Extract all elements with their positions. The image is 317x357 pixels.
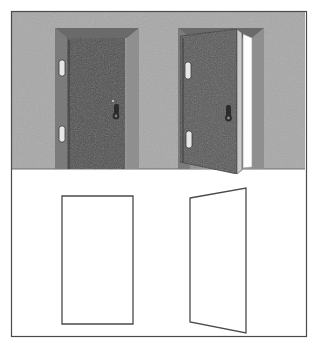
- open-door-panel: [180, 29, 237, 174]
- open-door-frame-right-jamb: [252, 28, 264, 169]
- hinge-lower-icon: [186, 131, 192, 148]
- closed-door-frame-right: [127, 28, 139, 169]
- closed-door-panel: [67, 38, 125, 169]
- open-door-leaf-edge: [237, 29, 242, 174]
- hinge-upper-icon: [59, 60, 65, 76]
- floor: [12, 169, 305, 335]
- plan-open-door: [190, 188, 246, 333]
- figure-canvas: [0, 0, 317, 357]
- closed-door-frame-left: [55, 28, 67, 169]
- closed-door-frame-top: [55, 28, 139, 38]
- plan-closed-door: [62, 196, 133, 324]
- door-handle-icon: [225, 105, 232, 121]
- hinge-lower-icon: [59, 126, 65, 142]
- open-door-opening: [243, 34, 252, 168]
- hinge-upper-icon: [185, 62, 191, 79]
- open-door: [178, 28, 264, 174]
- closed-door: [55, 28, 139, 169]
- door-illustration-figure: [0, 0, 317, 357]
